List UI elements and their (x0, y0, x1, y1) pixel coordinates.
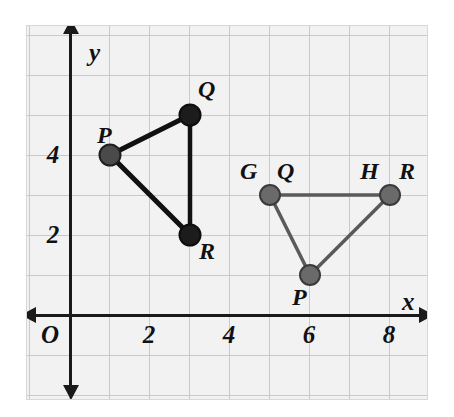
point-label-q-image: Q (277, 159, 294, 183)
segment-p-gq (270, 195, 310, 275)
point-p-image (300, 265, 320, 285)
coordinate-plane-figure: y x O 2 4 6 8 2 4 (0, 0, 454, 417)
point-label-h-image: H (360, 159, 379, 183)
point-label-p-image: P (292, 285, 307, 309)
point-label-r-preimage: R (199, 239, 215, 263)
triangle-image-edges (270, 195, 390, 275)
segment-r-p (110, 155, 190, 235)
point-gq-image (260, 185, 280, 205)
figure-svg (27, 26, 428, 400)
triangle-pqr-edges (110, 115, 190, 235)
point-label-r-image: R (399, 159, 415, 183)
segment-hr-p (310, 195, 390, 275)
point-label-q-preimage: Q (198, 77, 215, 101)
point-q-preimage (180, 105, 201, 126)
point-hr-image (380, 185, 400, 205)
point-label-g-image: G (240, 159, 257, 183)
plot-area: y x O 2 4 6 8 2 4 (26, 25, 428, 400)
point-r-preimage (180, 225, 201, 246)
point-label-p-preimage: P (97, 123, 112, 147)
segment-p-q (110, 115, 190, 155)
